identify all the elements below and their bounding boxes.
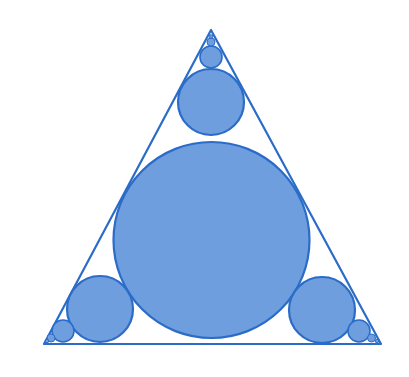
- right-circle-1: [289, 277, 355, 343]
- circle-group: [45, 35, 379, 343]
- top-circle-1: [178, 69, 244, 135]
- left-circle-1: [67, 276, 133, 342]
- top-circle-4: [209, 35, 213, 39]
- right-circle-4: [375, 339, 379, 343]
- top-circle-3: [207, 38, 215, 46]
- right-circle-3: [368, 334, 376, 342]
- top-circle-2: [200, 46, 222, 68]
- triangle-circles-diagram: [0, 0, 409, 377]
- central-circle: [114, 142, 310, 338]
- right-circle-2: [348, 320, 370, 342]
- left-circle-4: [45, 339, 49, 343]
